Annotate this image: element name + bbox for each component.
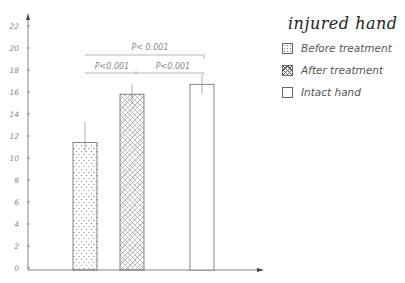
bar-hatch-overlay (120, 94, 144, 270)
legend-label: After treatment (301, 64, 383, 76)
bracket-lower (85, 73, 204, 74)
legend-item-after-treatment: After treatment (282, 63, 405, 77)
y-tick-label: 8 (14, 176, 19, 185)
y-tick-label: 10 (9, 154, 19, 163)
legend-title: injured hand (288, 14, 405, 33)
legend-item-before-treatment: Before treatment (282, 41, 405, 55)
y-tick-label: 22 (9, 22, 19, 31)
y-tick-label: 0 (14, 264, 19, 273)
dots-pattern-swatch-icon (282, 43, 293, 54)
y-tick-label: 4 (14, 220, 19, 229)
legend-item-intact-hand: Intact hand (282, 85, 405, 99)
y-tick-label: 6 (14, 198, 19, 207)
y-tick-label: 2 (14, 242, 19, 251)
crosshatch-pattern-swatch-icon (282, 65, 293, 76)
y-axis-arrow-icon (26, 13, 30, 20)
bars (73, 74, 214, 270)
bracket-before-intact (85, 55, 204, 59)
p-value-label: P<0.001 (156, 62, 190, 71)
bar-chart: 0246810121416182022 P< 0.001P<0.001P<0.0… (0, 0, 405, 283)
bar-intact-hand (190, 84, 214, 270)
y-tick-label: 20 (9, 44, 19, 53)
legend: injured hand Before treatment After trea… (282, 14, 405, 99)
x-axis-arrow-icon (257, 268, 264, 272)
p-value-label: P< 0.001 (132, 43, 169, 52)
y-tick-label: 16 (9, 88, 19, 97)
bar-before-treatment (73, 143, 97, 270)
significance-brackets: P< 0.001P<0.001P<0.001 (85, 43, 204, 75)
legend-label: Intact hand (301, 86, 361, 98)
empty-swatch-icon (282, 87, 293, 98)
y-tick-label: 18 (9, 66, 19, 75)
p-value-label: P<0.001 (95, 62, 129, 71)
y-tick-label: 12 (9, 132, 19, 141)
y-tick-label: 14 (9, 110, 19, 119)
legend-label: Before treatment (301, 42, 392, 54)
